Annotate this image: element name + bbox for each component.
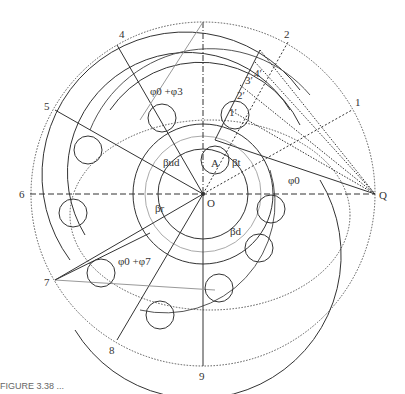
tangent-line-7: [55, 280, 215, 290]
ray-2: [203, 42, 288, 194]
roller: [59, 199, 87, 227]
label-phi0: φ0: [288, 174, 300, 186]
roller: [148, 104, 176, 132]
label-A: A: [211, 157, 219, 169]
roller: [146, 301, 174, 329]
ray-1: [203, 110, 352, 194]
label-O: O: [207, 197, 215, 209]
ray-4: [117, 45, 203, 194]
label-4p: 4′: [254, 67, 262, 79]
label-beta-t: βt: [232, 156, 241, 168]
roller: [205, 274, 233, 302]
label-1p: 1′: [229, 106, 237, 118]
roller: [74, 136, 102, 164]
label-Q: Q: [379, 189, 387, 201]
label-beta-d: βd: [230, 225, 242, 237]
label-2: 2: [284, 28, 290, 40]
cam-layout-diagram: 4 2 1 5 6 7 8 9 Q O A 1′ 2′ 3′ 4′ φ0 +φ3…: [0, 0, 405, 394]
label-beta-r: βr: [155, 202, 165, 214]
label-9: 9: [199, 370, 205, 382]
label-3p: 3′: [245, 74, 253, 86]
label-phi0-phi7: φ0 +φ7: [118, 255, 151, 267]
label-4: 4: [119, 28, 125, 40]
roller: [245, 234, 273, 262]
ray-8: [117, 194, 203, 340]
label-7: 7: [44, 276, 50, 288]
label-5: 5: [44, 100, 50, 112]
label-beta-ud: βud: [163, 156, 180, 168]
center-point: [201, 192, 205, 196]
figure-caption: FIGURE 3.38 ...: [0, 381, 64, 391]
label-phi0-phi3: φ0 +φ3: [150, 85, 183, 97]
ray-5: [55, 110, 203, 194]
label-2p: 2′: [237, 89, 245, 101]
label-8: 8: [109, 344, 115, 356]
ray-7: [55, 194, 203, 280]
label-1: 1: [355, 96, 361, 108]
label-6: 6: [19, 188, 25, 200]
